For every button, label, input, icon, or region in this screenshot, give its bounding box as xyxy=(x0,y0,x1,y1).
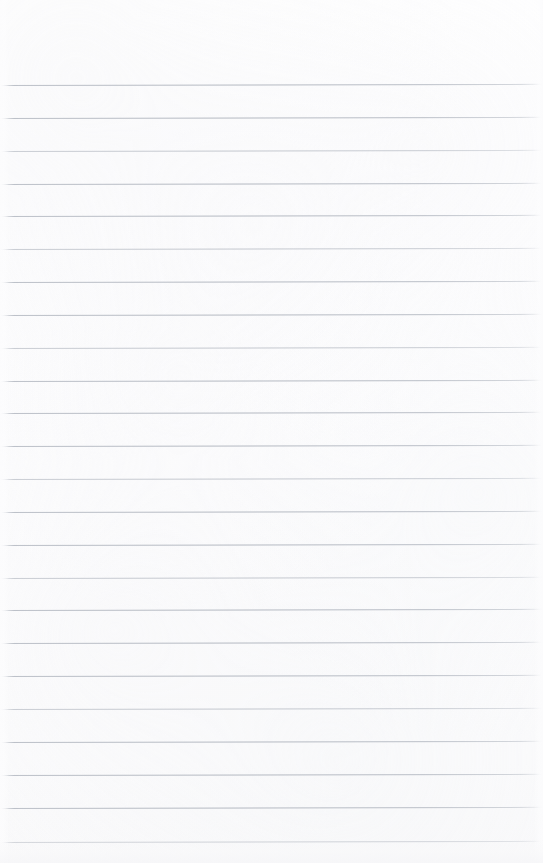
page-edge-right xyxy=(534,0,543,863)
ruled-line xyxy=(0,478,543,480)
ruled-line xyxy=(0,380,543,382)
ruled-line xyxy=(0,117,543,119)
ruled-line xyxy=(0,577,543,579)
ruled-line xyxy=(0,445,543,447)
ruled-line xyxy=(0,675,543,677)
ruled-line xyxy=(0,150,543,152)
ruled-line xyxy=(0,281,543,283)
ruled-line xyxy=(0,774,543,776)
ruled-line xyxy=(0,741,543,743)
page-edge-bottom xyxy=(0,837,543,863)
scanned-page xyxy=(0,0,543,863)
ruled-line xyxy=(0,183,543,185)
ruled-line xyxy=(0,642,543,644)
ruled-line xyxy=(0,807,543,809)
ruled-line xyxy=(0,511,543,513)
ruled-line xyxy=(0,84,543,86)
ruled-line xyxy=(0,347,543,349)
ruled-line xyxy=(0,248,543,250)
ruled-lines-group xyxy=(0,0,543,863)
ruled-line xyxy=(0,314,543,316)
ruled-line xyxy=(0,215,543,217)
page-edge-left xyxy=(0,0,9,863)
ruled-line xyxy=(0,708,543,710)
ruled-line xyxy=(0,544,543,546)
ruled-line xyxy=(0,609,543,611)
ruled-line xyxy=(0,412,543,414)
